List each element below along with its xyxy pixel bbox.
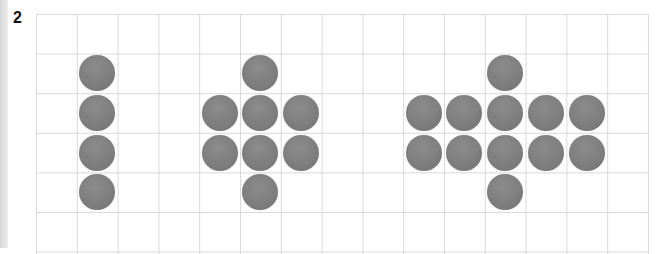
dot-vertical-line (79, 95, 115, 131)
problem-number: 2 (13, 9, 22, 27)
dot-vertical-line (79, 135, 115, 171)
dot-cross-3-wide (202, 95, 238, 131)
dot-cross-3-wide (242, 55, 278, 91)
dot-cross-5-wide (528, 135, 564, 171)
dot-cross-5-wide (569, 135, 605, 171)
dot-cross-3-wide (202, 135, 238, 171)
dot-cross-3-wide (283, 135, 319, 171)
dot-cross-3-wide (242, 95, 278, 131)
dot-vertical-line (79, 174, 115, 210)
page-edge-strip (0, 0, 8, 248)
dot-cross-3-wide (242, 174, 278, 210)
dot-cross-5-wide (487, 55, 523, 91)
dot-cross-5-wide (487, 95, 523, 131)
dot-cross-5-wide (528, 95, 564, 131)
dot-cross-5-wide (569, 95, 605, 131)
dot-cross-5-wide (487, 174, 523, 210)
dot-cross-5-wide (406, 135, 442, 171)
dot-cross-5-wide (446, 95, 482, 131)
dot-cross-3-wide (242, 135, 278, 171)
dot-cross-5-wide (406, 95, 442, 131)
dot-vertical-line (79, 55, 115, 91)
dot-cross-3-wide (283, 95, 319, 131)
dot-cross-5-wide (487, 135, 523, 171)
dot-grid (36, 14, 649, 254)
dot-cross-5-wide (446, 135, 482, 171)
